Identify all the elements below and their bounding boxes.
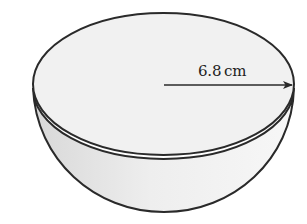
rim-ellipse [33, 13, 294, 155]
hemisphere-diagram [0, 0, 307, 224]
radius-label: 6.8 cm [198, 62, 246, 80]
